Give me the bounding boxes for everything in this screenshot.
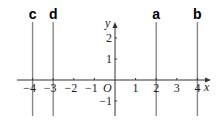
x-tick-label: −3 — [44, 81, 57, 95]
y-axis-arrow-icon — [113, 22, 118, 28]
y-tick-label: −1 — [99, 94, 112, 108]
ticks: −4−3−2−1123421−1 — [23, 31, 200, 108]
x-tick-label: −1 — [85, 81, 98, 95]
y-tick-label: 1 — [106, 52, 112, 66]
coordinate-plane: cdab −4−3−2−1123421−1 x y O — [0, 0, 221, 128]
x-tick-label: 3 — [174, 81, 180, 95]
x-axis-label: x — [203, 80, 210, 94]
origin-label: O — [103, 81, 112, 95]
line-label-a: a — [152, 6, 160, 22]
x-tick-label: 1 — [133, 81, 139, 95]
x-tick-label: −2 — [64, 81, 77, 95]
x-tick-label: 4 — [194, 81, 200, 95]
line-label-b: b — [193, 6, 202, 22]
y-axis-label: y — [104, 16, 111, 30]
y-tick-label: 2 — [106, 31, 112, 45]
x-tick-label: 2 — [153, 81, 159, 95]
line-label-c: c — [29, 6, 37, 22]
axes — [17, 22, 211, 116]
line-label-d: d — [49, 6, 58, 22]
x-tick-label: −4 — [23, 81, 36, 95]
